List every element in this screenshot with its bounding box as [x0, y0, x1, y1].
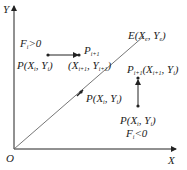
ol-close: ) — [118, 92, 122, 104]
pt-close: ) — [49, 59, 53, 71]
np: P — [84, 44, 91, 56]
np-sub: i+1 — [91, 51, 100, 57]
pt-mid: , Y — [36, 59, 48, 71]
point-dot-end-upper — [77, 53, 80, 56]
lnc-close: ) — [175, 63, 179, 75]
pt-p: P(X — [17, 59, 34, 71]
next-point-label-lower: Pi+1(Xi+1, Yi) — [127, 64, 179, 76]
lnc-mid: , Y — [162, 63, 174, 75]
condition-negative-label: Fi<0 — [126, 128, 147, 140]
point-dot-start-lower — [136, 104, 139, 107]
next-point-name-upper: Pi+1 — [84, 45, 99, 57]
point-dot-start-upper — [46, 53, 49, 56]
lpt-mid: , Y — [139, 114, 151, 126]
target-line — [14, 36, 144, 149]
on-line-point-label: P(Xi, Yi) — [86, 93, 122, 105]
y-axis-label: Y — [3, 4, 9, 15]
lnp: P — [127, 63, 134, 75]
origin-label: O — [6, 153, 14, 164]
nc-mid: , Y — [87, 59, 99, 71]
nc-open: (X — [68, 59, 78, 71]
point-dot-end-lower — [136, 76, 139, 79]
next-point-coords-upper: (Xi+1, Yi+1) — [68, 60, 111, 72]
current-point-label-lower: P(Xi, Yi) — [120, 115, 156, 127]
interpolation-diagram: Y X O E(Xe, Ye) Fi>0 P(Xi, Yi) Pi+1 (Xi+… — [0, 0, 187, 170]
lnc-sub-x: i+1 — [153, 70, 162, 76]
nc-sub-x: i+1 — [78, 66, 87, 72]
cond-rest: >0 — [28, 37, 41, 49]
ol-p: P(X — [86, 92, 103, 104]
nc-close: ) — [107, 59, 111, 71]
ol-mid: , Y — [105, 92, 117, 104]
end-close: ) — [162, 29, 166, 41]
end-point-label: E(Xe, Ye) — [128, 30, 166, 42]
lnc-open: (X — [142, 63, 152, 75]
lcond-rest: <0 — [134, 127, 147, 139]
current-point-label-upper: P(Xi, Yi) — [17, 60, 53, 72]
lpt-close: ) — [152, 114, 156, 126]
cond-f: F — [20, 37, 27, 49]
point-dot-on-line — [79, 90, 82, 93]
condition-positive-label: Fi>0 — [20, 38, 41, 50]
lpt-p: P(X — [120, 114, 137, 126]
x-axis-label: X — [168, 155, 175, 166]
diagram-graphics — [0, 0, 187, 170]
end-mid: , Y — [148, 29, 160, 41]
end-label-text: E(X — [128, 29, 145, 41]
lcond-f: F — [126, 127, 133, 139]
